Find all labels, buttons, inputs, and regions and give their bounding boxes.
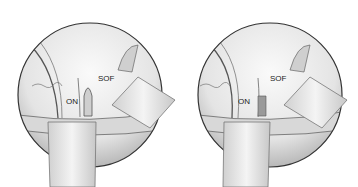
label-sof: SOF [270,74,287,83]
retractor-bottom [223,122,270,187]
retractor-bottom [48,122,96,187]
label-on: ON [238,97,250,106]
left-panel: ON SOF [18,23,175,187]
surgical-illustration: ON SOF ON SOF [0,0,358,187]
label-on: ON [66,97,78,106]
label-sof: SOF [98,74,115,83]
right-panel: ON SOF [198,23,347,187]
